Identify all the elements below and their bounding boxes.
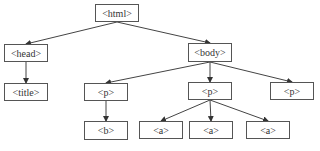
edge-p2-a3 <box>210 100 268 121</box>
node-p2: <p> <box>188 82 232 100</box>
node-title: <title> <box>4 83 48 101</box>
node-html: <html> <box>95 4 139 22</box>
edge-body-p3 <box>210 62 292 82</box>
node-p3: <p> <box>270 82 314 100</box>
edge-html-body <box>117 22 210 43</box>
edge-p2-a2 <box>210 100 211 121</box>
node-body: <body> <box>188 43 232 62</box>
edge-p2-a1 <box>161 100 210 121</box>
dom-tree-diagram: <html> <head> <body> <title> <p> <p> <p>… <box>0 0 320 151</box>
node-head: <head> <box>4 44 48 62</box>
node-p1: <p> <box>84 83 128 101</box>
node-a1: <a> <box>139 121 183 139</box>
node-b: <b> <box>84 121 128 140</box>
node-a3: <a> <box>246 121 290 139</box>
edge-html-head <box>26 22 117 44</box>
node-a2: <a> <box>189 121 233 139</box>
edge-body-p1 <box>106 62 210 83</box>
